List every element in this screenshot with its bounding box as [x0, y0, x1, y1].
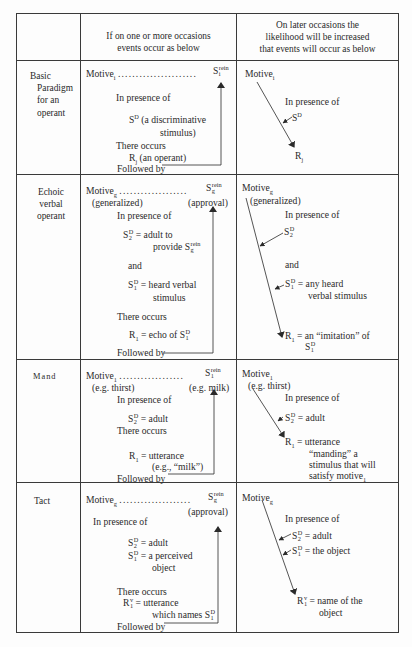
motive-sub: g [114, 500, 117, 507]
reinforcer-s: S [213, 65, 218, 76]
dotted-leader: ...................... [118, 68, 197, 79]
s1-row2-left: SD1 = heard verbal [128, 280, 196, 292]
motive-sub: g [270, 188, 273, 195]
response-row3-right: R1 = utterance [285, 437, 340, 447]
there-occurs-row1: There occurs [116, 141, 166, 151]
s2-arrow-row4 [279, 534, 291, 540]
stacked-index: rein1 [211, 367, 221, 379]
r-desc: = utterance [297, 436, 340, 447]
r-desc4-row3-right: satisfy motive1 [309, 471, 366, 481]
motive-text: Motive [86, 494, 114, 505]
response-row1-right: Rj [295, 151, 303, 161]
stacked-index: reing [214, 491, 224, 503]
label-line: operant [30, 107, 73, 119]
sd-sup: D [297, 111, 302, 118]
s1-desc: = the object [305, 545, 350, 556]
reinforcer-row2: Sreing [206, 183, 222, 195]
s2-row4-right: SD2 = adult [292, 531, 332, 543]
s1-s: S [128, 550, 133, 561]
and-row2-left: and [128, 261, 142, 271]
motive-sub: i [114, 74, 116, 81]
motive-text: Motive [242, 368, 270, 379]
sd-sup: D [134, 113, 139, 120]
r-desc3-row3-right: stimulus that will [309, 460, 376, 470]
motive-sub: i [273, 74, 275, 81]
sd-arrow-row1 [283, 117, 292, 123]
stacked-index: reing [212, 182, 222, 194]
stacked-index: D1 [311, 341, 316, 353]
in-presence-row3-left: In presence of [117, 395, 171, 405]
in-presence-row2-right: In presence of [285, 210, 339, 220]
s2-desc: = adult [141, 537, 168, 548]
motive-row2-right: Motiveg [242, 183, 273, 193]
r-desc2: S [305, 341, 310, 352]
s2-desc2: provide S [153, 241, 190, 252]
motive-text: Motive [86, 370, 114, 381]
reinforcer-s: S [208, 491, 213, 502]
stacked-index: reing [191, 241, 201, 253]
stacked-index: D2 [290, 226, 295, 238]
motive-note-row3-right: (e.g. thirst) [248, 381, 290, 391]
sd-desc: (a discriminative [141, 114, 206, 125]
s2-desc: = adult [298, 412, 325, 423]
response-row2-right: R1 = an “imitation” of [285, 331, 370, 341]
in-presence-row1-right: In presence of [285, 97, 339, 107]
in-presence-row2-left: In presence of [117, 211, 171, 221]
s1-desc: = any heard [298, 278, 343, 289]
reinforcer-row3: Srein1 [205, 368, 221, 380]
s1-row4-right: SD1 = the object [292, 546, 350, 558]
there-occurs-row2: There occurs [117, 312, 167, 322]
label-line: verbal [24, 198, 78, 210]
r-desc: = an “imitation” of [297, 330, 370, 341]
row-label-echoic: Echoic verbal operant [24, 186, 78, 223]
s2-s: S [128, 413, 133, 424]
s2-desc2-row2-left: provide Sreing [153, 242, 200, 254]
reinforcer-row4: Sreing [208, 492, 224, 504]
s1-s: S [285, 278, 290, 289]
there-occurs-row3: There occurs [117, 426, 167, 436]
s2-s: S [292, 530, 297, 541]
followed-by-row2: Followed by [117, 348, 165, 358]
s1-desc: = a perceived [141, 550, 193, 561]
s2-row2-right: SD2 [284, 227, 294, 239]
stacked-index: D2 [298, 530, 303, 542]
motive-note-row2-left: (generalized) [92, 198, 143, 208]
and-row2-right: and [285, 260, 299, 270]
s1-arrow-row2 [275, 285, 284, 289]
r-text: R [123, 597, 129, 608]
s2-desc: = adult [141, 413, 168, 424]
label-line: operant [24, 210, 78, 222]
r-desc4-sub: 1 [363, 476, 366, 483]
stacked-index: v1 [130, 597, 133, 609]
r-sub: 1 [291, 336, 294, 343]
r-desc: = echo of S [141, 329, 185, 340]
s1-desc2-row2-left: stimulus [153, 293, 186, 303]
s1-arrow-row4 [283, 550, 291, 555]
stacked-index: D2 [291, 412, 296, 424]
response-row2-left: R1 = echo of SD1 [129, 330, 190, 342]
r-desc: = utterance [141, 450, 184, 461]
reinforcer-row1: Sreini [213, 66, 229, 78]
s2-desc: = adult to [136, 229, 173, 240]
response-row3-left: R1 = utterance [129, 451, 184, 461]
s2-s: S [128, 537, 133, 548]
motive-row1-left: Motivei ...................... [86, 69, 197, 79]
response2-row2-right: SD1 [305, 342, 315, 354]
in-presence-row4-left: In presence of [93, 517, 147, 527]
r-desc4: satisfy motive [309, 470, 363, 481]
reinforcer-s: S [205, 367, 210, 378]
stacked-index: D1 [134, 550, 139, 562]
sd-row1-left: SD (a discriminative [129, 115, 206, 125]
s2-row3-right: SD2 = adult [285, 413, 325, 425]
label-line: Mand [33, 372, 57, 383]
r-sub: 1 [291, 442, 294, 449]
s2-arrow-row3 [278, 417, 283, 421]
r-desc: = name of the [309, 595, 362, 606]
motive-text: Motive [86, 68, 114, 79]
label-line: Tact [34, 495, 50, 507]
r-desc: = utterance [135, 597, 178, 608]
r-desc2-row3-right: “manding” a [309, 449, 358, 459]
diagonal-arrow-row2 [246, 198, 282, 337]
followed-by-row4: Followed by [117, 622, 165, 632]
motive-row4-left: Motiveg .................... [86, 495, 191, 505]
